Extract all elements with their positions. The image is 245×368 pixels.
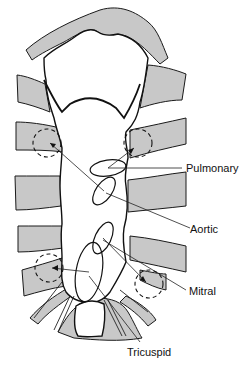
heart-valve-diagram: Pulmonary Aortic Mitral Tricuspid: [0, 0, 245, 368]
label-pulmonary: Pulmonary: [186, 162, 239, 174]
label-tricuspid: Tricuspid: [127, 346, 171, 358]
label-aortic: Aortic: [190, 223, 219, 235]
label-mitral: Mitral: [189, 285, 216, 297]
